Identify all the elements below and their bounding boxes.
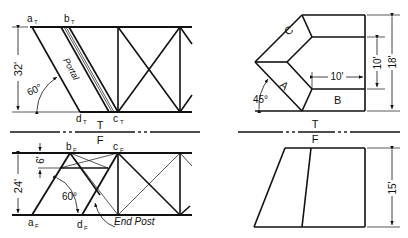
stub-bottom xyxy=(180,95,192,112)
svg-text:F: F xyxy=(84,225,88,231)
engineering-drawing: 32' 60° Portal a T b T d T c T T F T F xyxy=(0,0,408,238)
svg-text:d: d xyxy=(76,113,82,124)
svg-text:b: b xyxy=(66,141,72,152)
end-post-label: End Post xyxy=(114,216,156,227)
dim-15: 15' xyxy=(387,181,398,194)
svg-text:c: c xyxy=(113,113,118,124)
stub-top xyxy=(180,27,192,44)
portal-label: Portal xyxy=(61,56,81,82)
dim-32-label: 32' xyxy=(12,62,24,76)
left-front-view xyxy=(12,143,192,227)
svg-text:F: F xyxy=(120,147,124,153)
angle-arc xyxy=(37,77,57,110)
svg-text:d: d xyxy=(77,219,83,230)
svg-text:T: T xyxy=(120,119,124,125)
fold-label-top-left: T xyxy=(97,119,104,131)
fold-label-top-right: T xyxy=(312,118,319,130)
angle-60-front-label: 60° xyxy=(62,191,77,202)
svg-text:a: a xyxy=(27,13,33,24)
svg-text:T: T xyxy=(34,19,38,25)
dim-18: 18' xyxy=(387,55,398,68)
svg-text:T: T xyxy=(83,119,87,125)
face-b-label: B xyxy=(334,94,341,106)
dim-24-label: 24' xyxy=(12,179,24,193)
end-post-c-d xyxy=(82,153,118,215)
fold-label-bottom-right: F xyxy=(312,133,319,145)
face-c-label: C xyxy=(282,23,296,37)
angle-45-label: 45° xyxy=(253,94,268,105)
svg-text:a: a xyxy=(28,217,34,228)
svg-text:F: F xyxy=(35,223,39,229)
dim-10-vertical: 10' xyxy=(372,56,383,69)
svg-text:F: F xyxy=(73,147,77,153)
svg-text:c: c xyxy=(113,141,118,152)
left-top-view xyxy=(12,27,192,112)
right-front-view xyxy=(254,148,400,227)
face-a-label: A xyxy=(278,78,292,92)
svg-text:T: T xyxy=(71,19,75,25)
svg-text:b: b xyxy=(64,13,70,24)
dim-6-label: 6' xyxy=(35,156,46,164)
dim-10-horizontal: 10' xyxy=(330,71,343,82)
fold-label-bottom-left: F xyxy=(97,134,104,146)
